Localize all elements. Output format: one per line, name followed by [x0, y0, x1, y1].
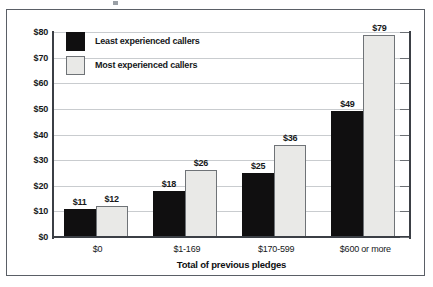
- bar-least-experienced-1: [153, 191, 185, 237]
- legend-label-least-experienced: Least experienced callers: [95, 36, 200, 46]
- bar-most-experienced-0: [96, 206, 128, 237]
- y-axis-tick-mark: [400, 83, 409, 84]
- y-axis-tick-mark: [400, 135, 409, 136]
- x-axis-title: Total of previous pledges: [53, 259, 410, 270]
- y-axis-tick-mark: [400, 109, 409, 110]
- y-axis-tick-labels: $0$10$20$30$40$50$60$70$80: [0, 0, 48, 287]
- y-axis-tick-mark: [400, 186, 409, 187]
- legend-swatch-dark-icon: [66, 32, 85, 51]
- y-axis-line-right: [409, 31, 411, 239]
- legend-item-least-experienced: Least experienced callers: [66, 31, 276, 53]
- bar-most-experienced-1: [185, 170, 217, 237]
- x-axis-category-label: $0: [53, 244, 142, 254]
- bar-least-experienced-0: [64, 209, 96, 237]
- chart-legend: Least experienced callers Most experienc…: [66, 31, 276, 79]
- gridline: [53, 83, 410, 84]
- legend-swatch-light-icon: [66, 56, 85, 75]
- y-axis-tick-label: $40: [4, 131, 48, 140]
- bar-least-experienced-3: [331, 111, 363, 237]
- y-axis-tick-mark: [400, 211, 409, 212]
- y-axis-tick-label: $70: [4, 54, 48, 63]
- x-axis-line: [52, 236, 411, 238]
- bar-value-label: $36: [268, 133, 312, 143]
- y-axis-tick-mark: [400, 58, 409, 59]
- y-axis-tick-mark: [400, 160, 409, 161]
- bar-least-experienced-2: [242, 173, 274, 237]
- y-axis-tick-mark: [400, 237, 409, 238]
- y-axis-tick-label: $80: [4, 28, 48, 37]
- y-axis-tick-label: $30: [4, 156, 48, 165]
- x-axis-category-label: $1-169: [142, 244, 231, 254]
- bar-value-label: $79: [357, 23, 401, 33]
- scan-artifact: [113, 1, 118, 5]
- chart-figure: $11$12$18$26$25$36$49$79 $0$10$20$30$40$…: [0, 0, 433, 287]
- y-axis-tick-mark: [400, 32, 409, 33]
- bar-most-experienced-2: [274, 145, 306, 237]
- bar-value-label: $12: [90, 194, 134, 204]
- y-axis-tick-label: $0: [4, 233, 48, 242]
- legend-label-most-experienced: Most experienced callers: [95, 60, 197, 70]
- x-axis-category-label: $170-599: [232, 244, 321, 254]
- y-axis-tick-label: $20: [4, 182, 48, 191]
- y-axis-line-left: [52, 31, 54, 239]
- bar-most-experienced-3: [363, 35, 395, 237]
- y-axis-tick-label: $50: [4, 105, 48, 114]
- y-axis-tick-label: $10: [4, 207, 48, 216]
- x-axis-category-label: $600 or more: [321, 244, 410, 254]
- legend-item-most-experienced: Most experienced callers: [66, 55, 276, 77]
- y-axis-tick-label: $60: [4, 79, 48, 88]
- bar-value-label: $26: [179, 158, 223, 168]
